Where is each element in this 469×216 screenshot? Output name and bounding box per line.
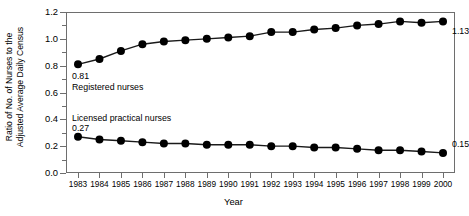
- x-tick: [379, 173, 380, 178]
- y-axis-title-line-2: Adjusted Average Daily Census: [15, 27, 26, 147]
- y-tick-label: 0.4: [28, 114, 58, 123]
- y-tick-label: 0.6: [28, 88, 58, 97]
- x-tick: [250, 173, 251, 178]
- x-tick: [400, 173, 401, 178]
- y-tick-minor: [62, 25, 66, 26]
- y-tick-label: 0.2: [28, 141, 58, 150]
- y-tick-minor: [62, 79, 66, 80]
- y-tick-minor: [62, 106, 66, 107]
- annotation-rn-series-name: Registered nurses: [72, 82, 143, 92]
- y-tick-label: 0.0: [28, 168, 58, 177]
- x-tick: [78, 173, 79, 178]
- y-tick-major: [60, 93, 66, 94]
- y-tick-minor: [62, 52, 66, 53]
- y-tick-minor: [62, 160, 66, 161]
- y-tick-major: [60, 173, 66, 174]
- y-tick-label: 1.2: [28, 7, 58, 16]
- y-tick-major: [60, 146, 66, 147]
- x-tick: [336, 173, 337, 178]
- x-tick: [271, 173, 272, 178]
- x-tick: [207, 173, 208, 178]
- y-tick-major: [60, 119, 66, 120]
- x-tick: [142, 173, 143, 178]
- x-tick: [443, 173, 444, 178]
- x-axis-title: Year: [0, 196, 467, 207]
- x-tick: [314, 173, 315, 178]
- plot-area: [66, 12, 455, 173]
- y-tick-label: 0.8: [28, 61, 58, 70]
- y-tick-major: [60, 66, 66, 67]
- y-axis-title-line-1: Ratio of No. of Nurses to the: [4, 33, 15, 141]
- x-tick: [293, 173, 294, 178]
- x-tick: [357, 173, 358, 178]
- annotation-lpn-end-value: 0.15: [452, 139, 469, 149]
- y-tick-minor: [62, 133, 66, 134]
- annotation-lpn-series-name: Licensed practical nurses: [72, 113, 171, 123]
- y-tick-label: 1.0: [28, 34, 58, 43]
- annotation-rn-start-value: 0.81: [72, 71, 89, 81]
- y-tick-major: [60, 39, 66, 40]
- annotation-lpn-start-value: 0.27: [72, 123, 89, 133]
- y-axis-title: Ratio of No. of Nurses to the Adjusted A…: [0, 0, 30, 180]
- annotation-rn-end-value: 1.13: [452, 26, 469, 36]
- x-tick: [422, 173, 423, 178]
- x-tick-label: 2000: [428, 180, 458, 189]
- x-tick: [121, 173, 122, 178]
- x-tick: [228, 173, 229, 178]
- x-tick: [164, 173, 165, 178]
- y-tick-major: [60, 12, 66, 13]
- x-tick: [185, 173, 186, 178]
- x-tick: [99, 173, 100, 178]
